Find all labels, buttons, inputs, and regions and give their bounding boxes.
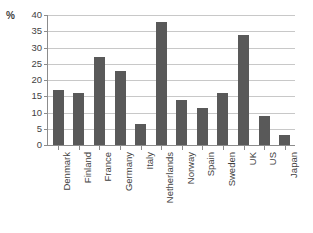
bar [115,71,126,145]
x-axis-tick-mark [264,146,265,150]
gridline [48,113,295,114]
y-axis-tick-label: 25 [2,59,42,69]
x-axis-tick-mark [244,146,245,150]
x-axis-tick-mark [120,146,121,150]
gridline [48,48,295,49]
x-axis-category-label-text: Germany [124,152,134,191]
bar [217,93,228,145]
x-axis-category-label: Norway [186,152,196,184]
x-axis-category-label: Finland [83,152,93,183]
gridline [48,96,295,97]
bar [176,100,187,145]
bar [156,22,167,146]
y-axis-tick-label: 30 [2,43,42,53]
gridline [48,15,295,16]
y-axis-tick-mark [44,145,48,146]
x-axis-category-label-text: Finland [83,152,93,183]
y-axis-tick-label: 20 [2,75,42,85]
bar [259,116,270,145]
y-axis-tick-label: 0 [2,140,42,150]
y-axis-tick-mark [44,129,48,130]
x-axis-category-label-text: Norway [186,152,196,184]
x-axis-category-label-text: UK [248,152,258,165]
bar [279,135,290,145]
gridline [48,80,295,81]
bar [94,57,105,145]
x-axis-category-label: Denmark [62,152,72,191]
x-axis-category-label-text: Japan [289,152,299,178]
x-axis-category-label-text: Netherlands [165,152,175,203]
gridline [48,64,295,65]
x-axis-tick-mark [79,146,80,150]
y-axis-tick-mark [44,48,48,49]
plot-area [48,15,295,145]
bar [53,90,64,145]
y-axis-tick-labels: 0510152025303540 [0,15,42,145]
x-axis-tick-mark [58,146,59,150]
y-axis-tick-label: 35 [2,26,42,36]
x-axis-category-label: Japan [289,152,299,178]
y-axis-tick-label: 5 [2,124,42,134]
y-axis-tick-label: 40 [2,10,42,20]
x-axis-category-label-text: Denmark [62,152,72,191]
y-axis-tick-mark [44,80,48,81]
x-axis-tick-mark [285,146,286,150]
bar-chart: % 0510152025303540 DenmarkFinlandFranceG… [0,0,313,233]
x-axis-category-label: Sweden [227,152,237,186]
x-axis-category-label: Netherlands [165,152,175,203]
x-axis-tick-mark [182,146,183,150]
x-axis-baseline [48,145,295,146]
y-axis-tick-mark [44,15,48,16]
bar [238,35,249,146]
x-axis-category-label: UK [248,152,258,165]
x-axis-tick-mark [99,146,100,150]
x-axis-category-label-text: Spain [206,152,216,176]
x-axis-category-label: France [103,152,113,182]
x-axis-category-label: US [268,152,278,165]
x-axis-tick-mark [161,146,162,150]
y-axis-tick-mark [44,64,48,65]
x-axis-category-label: Spain [206,152,216,176]
bar [135,124,146,145]
bar [73,93,84,145]
x-axis-tick-mark [202,146,203,150]
x-axis-tick-mark [141,146,142,150]
x-axis-category-label-text: US [268,152,278,165]
y-axis-tick-mark [44,113,48,114]
y-axis-tick-label: 10 [2,108,42,118]
x-axis-category-label: Germany [124,152,134,191]
x-axis-category-label: Italy [145,152,155,169]
y-axis-tick-mark [44,31,48,32]
gridline [48,31,295,32]
x-axis-category-label-text: Italy [145,152,155,169]
y-axis-tick-mark [44,96,48,97]
x-axis-tick-mark [223,146,224,150]
y-axis-tick-label: 15 [2,91,42,101]
x-axis-category-label-text: Sweden [227,152,237,186]
bar [197,108,208,145]
x-axis-category-label-text: France [103,152,113,182]
